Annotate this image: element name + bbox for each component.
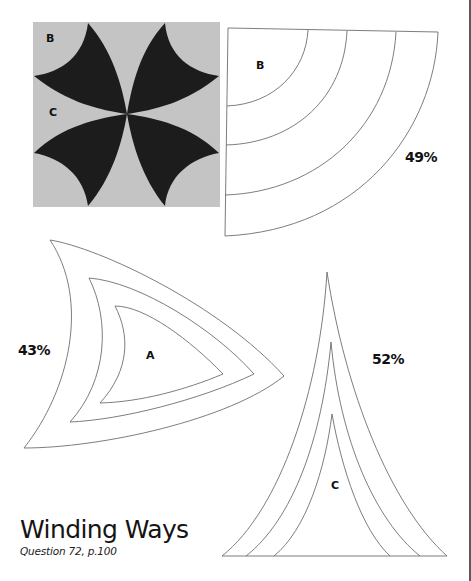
template-a-label: A: [146, 350, 155, 361]
block-label-b: B: [46, 33, 54, 44]
pattern-title: Winding Ways: [20, 517, 189, 542]
template-b-scale: 49%: [405, 150, 437, 164]
quilt-block-illustration: [33, 22, 220, 207]
template-c-label: C: [331, 480, 339, 491]
title-block: Winding Ways Question 72, p.100: [20, 517, 189, 557]
template-c-outline: [222, 272, 447, 556]
template-b-label: B: [256, 60, 264, 71]
block-label-c: C: [49, 107, 57, 118]
page: B C B 49% 43% A 52% C Winding Ways Quest…: [0, 0, 471, 581]
template-c-scale: 52%: [372, 352, 404, 366]
template-a-outline: [24, 240, 284, 448]
templates-drawing: [0, 0, 471, 581]
pattern-subtitle: Question 72, p.100: [20, 545, 189, 557]
template-a-scale: 43%: [18, 343, 50, 357]
